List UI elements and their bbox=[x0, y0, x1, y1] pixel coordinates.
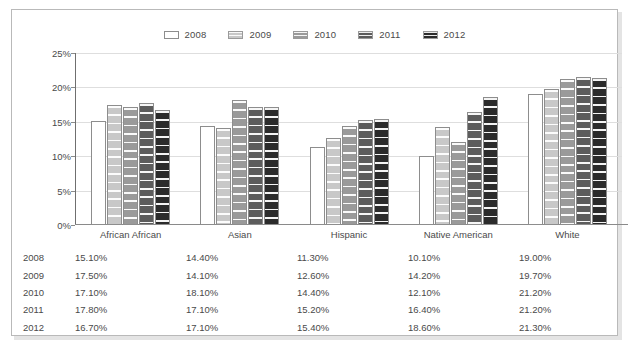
bar-2010[interactable] bbox=[451, 142, 466, 225]
table-cell: 14.20% bbox=[408, 266, 519, 283]
bar-2011[interactable] bbox=[139, 103, 154, 225]
table-cell: 14.40% bbox=[186, 249, 297, 266]
table-cell: 16.70% bbox=[75, 319, 186, 336]
table-cell: 19.00% bbox=[519, 249, 630, 266]
bar-group bbox=[404, 53, 513, 225]
bar-2011[interactable] bbox=[248, 107, 263, 225]
bar-groups bbox=[76, 53, 622, 225]
y-tick-mark bbox=[71, 225, 75, 226]
table-cell: 17.10% bbox=[186, 319, 297, 336]
bar-2010[interactable] bbox=[560, 79, 575, 225]
table-row: 200815.10%14.40%11.30%10.10%19.00% bbox=[23, 249, 630, 266]
legend-label: 2010 bbox=[314, 29, 336, 40]
chart-screenshot: 20082009201020112012 0%5%10%15%20%25% Af… bbox=[0, 0, 634, 359]
legend-item-2012[interactable]: 2012 bbox=[423, 29, 466, 40]
y-tick-mark bbox=[71, 156, 75, 157]
bar-2010[interactable] bbox=[342, 126, 357, 225]
table-row: 200917.50%14.10%12.60%14.20%19.70% bbox=[23, 266, 630, 283]
plot-canvas bbox=[75, 53, 622, 225]
table-row-year: 2009 bbox=[23, 266, 75, 283]
table-cell: 18.60% bbox=[408, 319, 519, 336]
table-cell: 17.80% bbox=[75, 301, 186, 318]
table-row-year: 2012 bbox=[23, 319, 75, 336]
y-tick-label: 10% bbox=[52, 151, 71, 162]
bar-2008[interactable] bbox=[419, 156, 434, 225]
table-cell: 16.40% bbox=[408, 301, 519, 318]
y-tick-mark bbox=[71, 122, 75, 123]
table-cell: 17.50% bbox=[75, 266, 186, 283]
legend-label: 2012 bbox=[444, 29, 466, 40]
table-cell: 18.10% bbox=[186, 284, 297, 301]
bar-2011[interactable] bbox=[358, 120, 373, 225]
bar-group bbox=[294, 53, 403, 225]
table-cell: 15.40% bbox=[297, 319, 408, 336]
y-tick-label: 0% bbox=[57, 220, 71, 231]
table-row-year: 2011 bbox=[23, 301, 75, 318]
table-cell: 14.10% bbox=[186, 266, 297, 283]
legend-label: 2011 bbox=[379, 29, 400, 40]
bar-2008[interactable] bbox=[310, 147, 325, 225]
bar-2009[interactable] bbox=[326, 138, 341, 225]
legend-swatch-icon bbox=[228, 31, 243, 39]
category-label: Asian bbox=[185, 229, 294, 240]
bar-2009[interactable] bbox=[435, 127, 450, 225]
legend-swatch-icon bbox=[358, 31, 373, 39]
table-cell: 11.30% bbox=[297, 249, 408, 266]
bar-2010[interactable] bbox=[123, 107, 138, 225]
bar-2012[interactable] bbox=[592, 78, 607, 225]
bar-2011[interactable] bbox=[576, 77, 591, 225]
table-cell: 17.10% bbox=[186, 301, 297, 318]
bar-2012[interactable] bbox=[374, 119, 389, 225]
legend-item-2010[interactable]: 2010 bbox=[293, 29, 336, 40]
legend-swatch-icon bbox=[293, 31, 308, 39]
bar-2012[interactable] bbox=[483, 97, 498, 225]
bar-2008[interactable] bbox=[200, 126, 215, 225]
legend-label: 2009 bbox=[249, 29, 271, 40]
bar-2008[interactable] bbox=[91, 121, 106, 225]
legend-item-2011[interactable]: 2011 bbox=[358, 29, 400, 40]
category-label: African African bbox=[76, 229, 185, 240]
bar-2010[interactable] bbox=[232, 100, 247, 225]
bar-2009[interactable] bbox=[544, 89, 559, 225]
chart-legend: 20082009201020112012 bbox=[12, 29, 617, 40]
data-table: 200815.10%14.40%11.30%10.10%19.00%200917… bbox=[23, 249, 630, 336]
bar-2009[interactable] bbox=[216, 128, 231, 225]
legend-item-2009[interactable]: 2009 bbox=[228, 29, 271, 40]
category-label: White bbox=[513, 229, 622, 240]
table-cell: 10.10% bbox=[408, 249, 519, 266]
table-cell: 19.70% bbox=[519, 266, 630, 283]
table-row: 201017.10%18.10%14.40%12.10%21.20% bbox=[23, 284, 630, 301]
bar-2011[interactable] bbox=[467, 112, 482, 225]
bar-group bbox=[513, 53, 622, 225]
table-row-year: 2008 bbox=[23, 249, 75, 266]
bar-group bbox=[185, 53, 294, 225]
bar-2012[interactable] bbox=[264, 107, 279, 225]
bar-2009[interactable] bbox=[107, 105, 122, 225]
table-cell: 15.20% bbox=[297, 301, 408, 318]
table-cell: 21.20% bbox=[519, 301, 630, 318]
y-tick-label: 20% bbox=[52, 82, 71, 93]
legend-label: 2008 bbox=[185, 29, 207, 40]
table-cell: 12.10% bbox=[408, 284, 519, 301]
y-tick-mark bbox=[71, 87, 75, 88]
table-row: 201117.80%17.10%15.20%16.40%21.20% bbox=[23, 301, 630, 318]
y-tick-label: 15% bbox=[52, 116, 71, 127]
legend-item-2008[interactable]: 2008 bbox=[164, 29, 207, 40]
y-tick-label: 5% bbox=[57, 185, 71, 196]
table-cell: 14.40% bbox=[297, 284, 408, 301]
x-axis-category-labels: African AfricanAsianHispanicNative Ameri… bbox=[76, 229, 622, 240]
table-cell: 17.10% bbox=[75, 284, 186, 301]
table-cell: 15.10% bbox=[75, 249, 186, 266]
legend-swatch-icon bbox=[164, 31, 179, 39]
legend-swatch-icon bbox=[423, 31, 438, 39]
bar-group bbox=[76, 53, 185, 225]
table-row: 201216.70%17.10%15.40%18.60%21.30% bbox=[23, 319, 630, 336]
table-cell: 12.60% bbox=[297, 266, 408, 283]
y-tick-label: 25% bbox=[52, 48, 71, 59]
category-label: Native American bbox=[404, 229, 513, 240]
chart-card: 20082009201020112012 0%5%10%15%20%25% Af… bbox=[11, 9, 618, 336]
y-tick-mark bbox=[71, 53, 75, 54]
bar-2008[interactable] bbox=[528, 94, 543, 225]
y-tick-mark bbox=[71, 191, 75, 192]
bar-2012[interactable] bbox=[155, 110, 170, 225]
